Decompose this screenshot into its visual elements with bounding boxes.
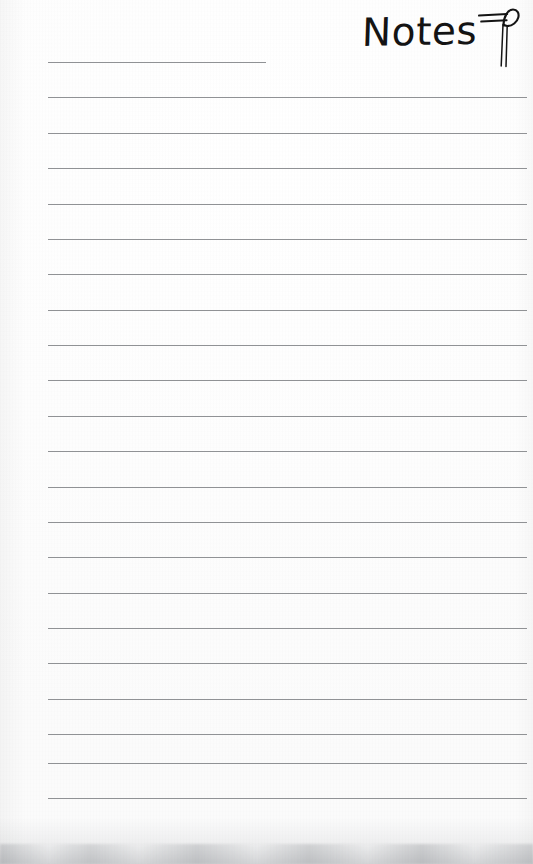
rule-line[interactable] bbox=[48, 204, 527, 205]
rule-line[interactable] bbox=[48, 416, 527, 417]
rule-line[interactable] bbox=[48, 663, 527, 664]
rule-line[interactable] bbox=[48, 734, 527, 735]
rule-line[interactable] bbox=[48, 239, 527, 240]
rule-line[interactable] bbox=[48, 345, 527, 346]
rule-line[interactable] bbox=[48, 380, 527, 381]
rule-line[interactable] bbox=[48, 487, 527, 488]
rule-line[interactable] bbox=[48, 168, 527, 169]
ruled-lines bbox=[0, 0, 533, 864]
rule-line[interactable] bbox=[48, 593, 527, 594]
rule-line[interactable] bbox=[48, 97, 527, 98]
rule-line[interactable] bbox=[48, 557, 527, 558]
rule-line[interactable] bbox=[48, 798, 527, 799]
rule-line[interactable] bbox=[48, 133, 527, 134]
rule-line[interactable] bbox=[48, 699, 527, 700]
note-page: Notes bbox=[0, 0, 533, 864]
rule-line[interactable] bbox=[48, 763, 527, 764]
rule-line[interactable] bbox=[48, 62, 266, 63]
rule-line[interactable] bbox=[48, 310, 527, 311]
rule-line[interactable] bbox=[48, 451, 527, 452]
rule-line[interactable] bbox=[48, 274, 527, 275]
rule-line[interactable] bbox=[48, 522, 527, 523]
rule-line[interactable] bbox=[48, 628, 527, 629]
